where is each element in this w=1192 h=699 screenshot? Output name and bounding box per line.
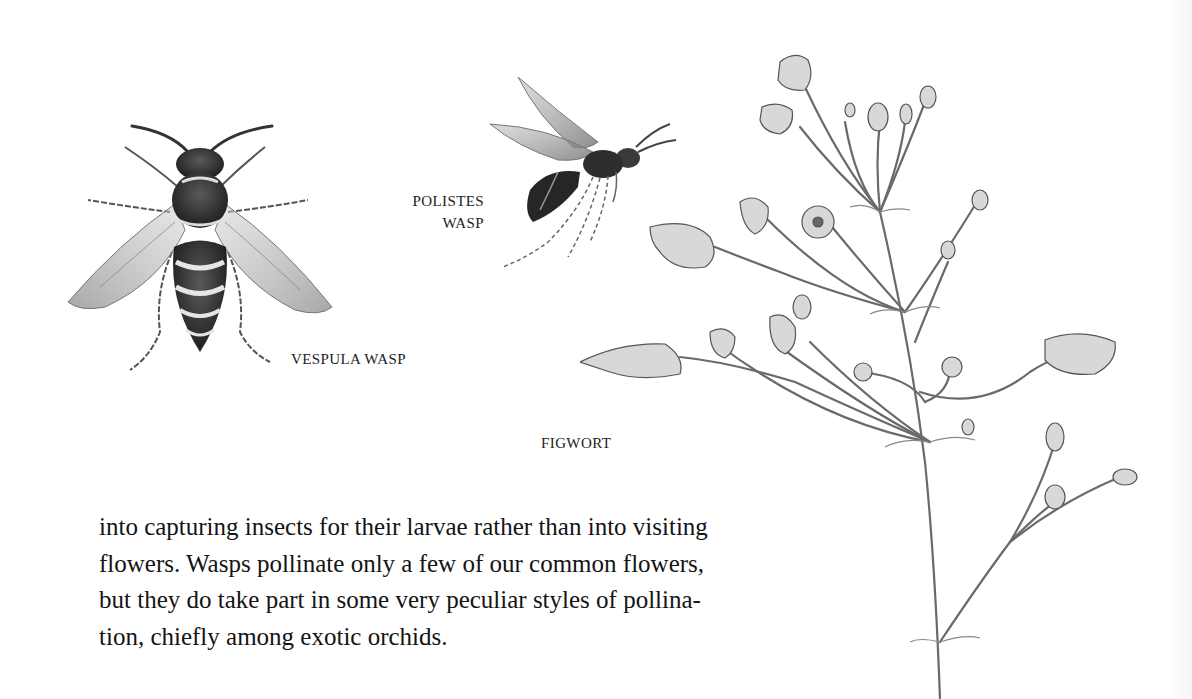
figwort-caption: FIGWORT	[541, 432, 611, 454]
polistes-caption-line2: WASP	[442, 215, 484, 231]
body-line: but they do take part in some very pecul…	[99, 582, 959, 619]
vespula-caption: VESPULA WASP	[291, 348, 406, 370]
body-line: into capturing insects for their larvae …	[99, 509, 959, 546]
polistes-caption-line1: POLISTES	[412, 193, 484, 209]
wasp-icon	[60, 112, 340, 377]
polistes-caption: POLISTES WASP	[384, 190, 484, 234]
page-edge-shading	[1168, 0, 1192, 699]
body-line: flowers. Wasps pollinate only a few of o…	[99, 546, 959, 583]
book-page: POLISTES WASP VESPULA WASP	[0, 0, 1192, 699]
body-paragraph: into capturing insects for their larvae …	[99, 509, 959, 655]
vespula-wasp-illustration	[60, 112, 340, 377]
body-line: tion, chiefly among exotic orchids.	[99, 619, 959, 656]
